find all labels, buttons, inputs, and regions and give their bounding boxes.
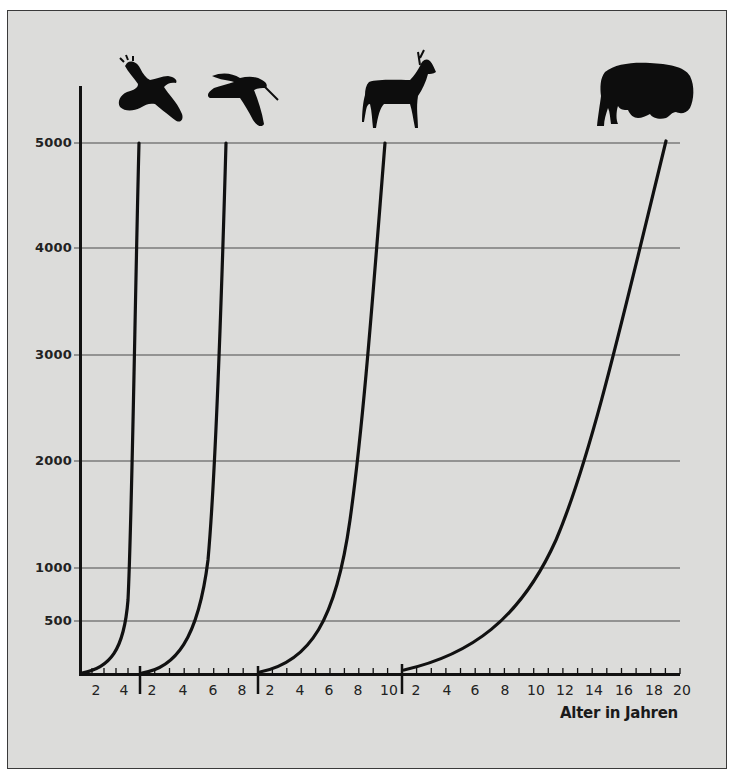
x-label: 6 xyxy=(471,682,480,698)
deer-silhouette-icon xyxy=(362,50,436,128)
x-label: 18 xyxy=(645,682,663,698)
x-label: 14 xyxy=(585,682,603,698)
x-label: 8 xyxy=(354,682,363,698)
bison-silhouette-icon xyxy=(597,63,693,126)
curve-deer xyxy=(260,143,385,672)
curve-partridge xyxy=(82,143,139,673)
x-label: 4 xyxy=(179,682,188,698)
curve-bison xyxy=(404,141,666,670)
x-label: 2 xyxy=(148,682,157,698)
y-axis-labels: 5000 4000 3000 2000 1000 500 xyxy=(0,0,72,781)
x-label: 4 xyxy=(120,682,129,698)
x-label: 4 xyxy=(443,682,452,698)
y-label-500: 500 xyxy=(44,613,72,628)
curve-woodcock xyxy=(142,143,226,673)
x-axis-title: Alter in Jahren xyxy=(560,704,678,722)
woodcock-silhouette-icon xyxy=(208,74,278,127)
x-label: 12 xyxy=(556,682,574,698)
x-label: 6 xyxy=(209,682,218,698)
partridge-silhouette-icon xyxy=(119,55,183,122)
y-label-2000: 2000 xyxy=(35,453,72,468)
x-label: 2 xyxy=(266,682,275,698)
y-label-1000: 1000 xyxy=(35,560,72,575)
y-label-4000: 4000 xyxy=(35,240,72,255)
y-label-5000: 5000 xyxy=(35,135,72,150)
x-label: 2 xyxy=(412,682,421,698)
x-label: 10 xyxy=(380,682,398,698)
x-label: 16 xyxy=(615,682,633,698)
y-label-3000: 3000 xyxy=(35,347,72,362)
gridlines xyxy=(74,143,680,621)
x-label: 20 xyxy=(673,682,691,698)
x-label: 4 xyxy=(296,682,305,698)
x-label: 8 xyxy=(501,682,510,698)
x-label: 10 xyxy=(527,682,545,698)
x-label: 8 xyxy=(238,682,247,698)
chart-canvas xyxy=(0,0,736,781)
x-label: 2 xyxy=(92,682,101,698)
x-label: 6 xyxy=(325,682,334,698)
